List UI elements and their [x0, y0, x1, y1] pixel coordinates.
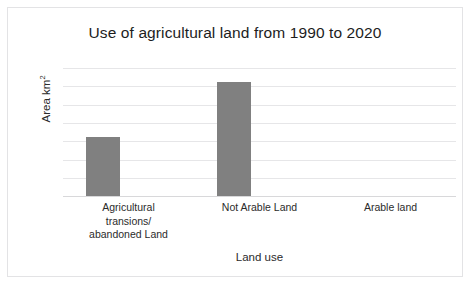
- bar-agricultural-transitions[interactable]: [86, 137, 120, 196]
- y-axis-title-text: Area km: [40, 80, 52, 123]
- x-tick-line: abandoned Land: [63, 228, 194, 242]
- chart-frame: Use of agricultural land from 1990 to 20…: [7, 7, 463, 277]
- y-axis-title-superscript: 2: [38, 75, 47, 79]
- gridline: [63, 160, 456, 161]
- x-tick-line: Arable land: [325, 201, 456, 215]
- plot-area: [63, 68, 456, 197]
- x-tick-line: Agricultural: [63, 201, 194, 215]
- gridline: [63, 105, 456, 106]
- gridline: [63, 86, 456, 87]
- x-tick-label-agricultural-transitions: Agricultural transions/ abandoned Land: [63, 201, 194, 249]
- x-tick-line: Not Arable Land: [194, 201, 325, 215]
- gridline: [63, 123, 456, 124]
- x-axis-tick-labels: Agricultural transions/ abandoned Land N…: [63, 201, 456, 249]
- chart-title: Use of agricultural land from 1990 to 20…: [8, 24, 462, 42]
- gridline: [63, 141, 456, 142]
- gridline: [63, 68, 456, 69]
- x-tick-label-not-arable-land: Not Arable Land: [194, 201, 325, 249]
- x-tick-label-arable-land: Arable land: [325, 201, 456, 249]
- x-axis-line: [63, 196, 456, 197]
- x-tick-line: transions/: [63, 215, 194, 229]
- gridline: [63, 178, 456, 179]
- y-axis-title: Area km2: [38, 54, 52, 144]
- bar-not-arable-land[interactable]: [217, 82, 251, 196]
- x-axis-title: Land use: [63, 251, 456, 263]
